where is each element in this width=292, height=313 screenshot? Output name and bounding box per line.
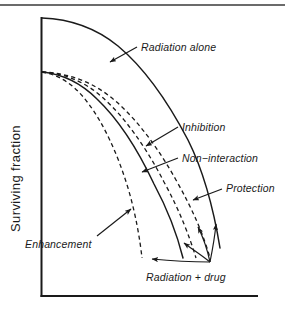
label-enhancement: Enhancement: [25, 238, 92, 250]
label-radiation-alone: Radiation alone: [141, 41, 216, 53]
survival-curve-chart: Surviving fraction Radiation alone Inhib…: [0, 0, 292, 313]
figure-container: Surviving fraction Radiation alone Inhib…: [0, 0, 292, 313]
label-inhibition: Inhibition: [182, 121, 226, 133]
label-radiation-plus-drug: Radiation + drug: [146, 271, 226, 283]
label-protection: Protection: [226, 182, 275, 194]
y-axis-label: Surviving fraction: [8, 125, 23, 232]
label-non-interaction: Non−interaction: [182, 152, 258, 164]
